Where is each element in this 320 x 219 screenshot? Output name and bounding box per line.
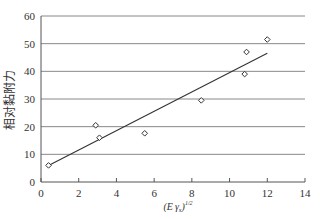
x-tick-label: 8 bbox=[189, 187, 195, 199]
trendline bbox=[49, 53, 268, 165]
x-tick-label: 0 bbox=[38, 187, 44, 199]
diamond-marker-icon bbox=[264, 37, 270, 43]
diamond-marker-icon bbox=[142, 131, 148, 137]
x-tick-label: 12 bbox=[262, 187, 273, 199]
y-tick-label: 30 bbox=[24, 93, 36, 105]
scatter-chart: 0102030405060 02468101214 相对黏附力 (Eγs)1/2 bbox=[0, 0, 320, 219]
diamond-marker-icon bbox=[198, 98, 204, 104]
trendline-line bbox=[49, 53, 268, 165]
diamond-marker-icon bbox=[97, 135, 103, 141]
diamond-marker-icon bbox=[46, 163, 52, 169]
x-tick-label: 10 bbox=[224, 187, 236, 199]
gridlines bbox=[41, 16, 305, 154]
diamond-marker-icon bbox=[242, 71, 248, 77]
y-tick-labels: 0102030405060 bbox=[24, 10, 36, 188]
y-axis-label: 相对黏附力 bbox=[3, 70, 17, 130]
x-tick-labels: 02468101214 bbox=[38, 187, 311, 199]
x-tick-label: 6 bbox=[151, 187, 157, 199]
x-tick-label: 14 bbox=[300, 187, 312, 199]
y-tick-label: 20 bbox=[24, 121, 36, 133]
data-points bbox=[46, 37, 270, 168]
diamond-marker-icon bbox=[93, 122, 99, 128]
y-tick-label: 0 bbox=[30, 176, 36, 188]
y-tick-label: 60 bbox=[24, 10, 36, 22]
y-tick-label: 40 bbox=[24, 65, 36, 77]
x-tick-label: 2 bbox=[76, 187, 82, 199]
x-axis-label: (Eγs)1/2 bbox=[163, 200, 192, 214]
y-tick-label: 10 bbox=[24, 148, 36, 160]
x-tick-label: 4 bbox=[114, 187, 120, 199]
y-tick-label: 50 bbox=[24, 38, 36, 50]
diamond-marker-icon bbox=[244, 49, 250, 55]
